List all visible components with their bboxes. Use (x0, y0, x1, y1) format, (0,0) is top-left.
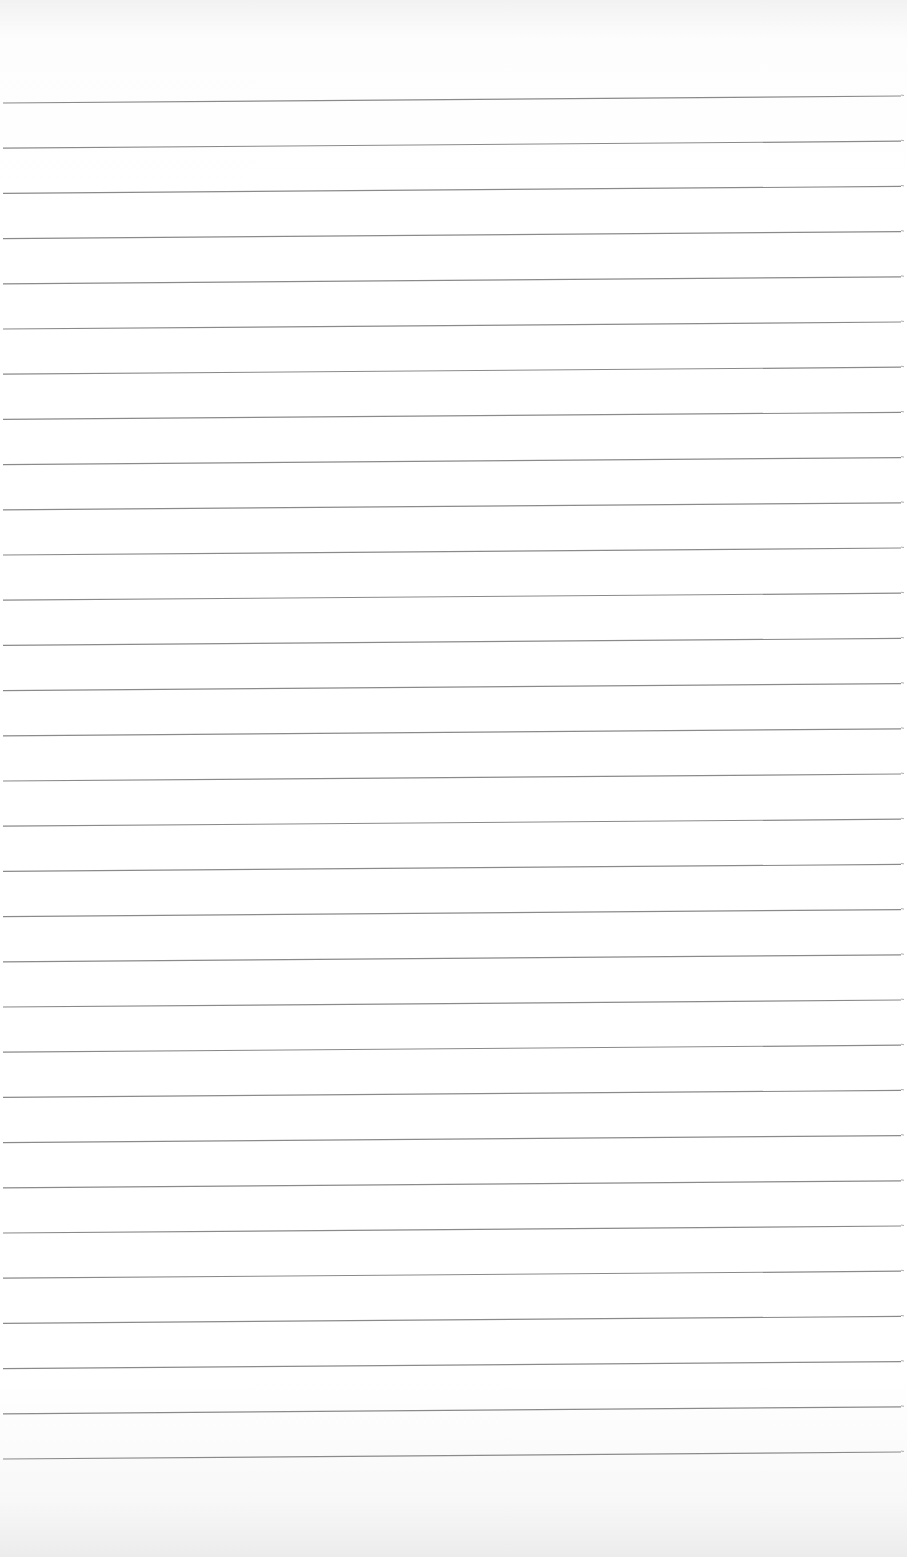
line-end-tick (901, 1044, 904, 1045)
ruled-line (3, 1362, 901, 1369)
lined-paper-sheet (0, 0, 907, 1557)
ruled-line (3, 955, 901, 962)
ruled-line (3, 864, 901, 871)
ruled-line (3, 548, 901, 555)
ruled-line (3, 322, 901, 329)
line-end-tick (901, 1361, 904, 1362)
ruled-line (3, 412, 901, 419)
line-end-tick (901, 863, 904, 864)
ruled-line (3, 684, 901, 691)
line-end-tick (901, 818, 904, 819)
line-end-tick (901, 999, 904, 1000)
ruled-line (3, 1452, 901, 1459)
ruled-line (3, 458, 901, 465)
ruled-line (3, 774, 901, 781)
line-end-tick (901, 1225, 904, 1226)
ruled-line (3, 1316, 901, 1323)
ruled-line (3, 910, 901, 917)
ruled-line (3, 1407, 901, 1414)
line-end-tick (901, 411, 904, 412)
ruled-line (3, 819, 901, 826)
line-end-tick (901, 366, 904, 367)
line-end-tick (901, 954, 904, 955)
ruled-line (3, 367, 901, 374)
ruled-line (3, 1000, 901, 1007)
line-end-tick (901, 231, 904, 232)
ruled-line (3, 638, 901, 645)
ruled-line (3, 1136, 901, 1143)
ruled-line (3, 1090, 901, 1097)
ruled-line (3, 141, 901, 148)
ruled-line (3, 277, 901, 284)
ruled-line (3, 1045, 901, 1052)
line-end-tick (901, 1135, 904, 1136)
ruled-line (3, 503, 901, 510)
ruled-line (3, 593, 901, 600)
line-end-tick (901, 457, 904, 458)
line-end-tick (901, 185, 904, 186)
line-end-tick (901, 637, 904, 638)
ruled-line (3, 96, 901, 103)
line-end-tick (901, 909, 904, 910)
line-end-tick (901, 1089, 904, 1090)
ruled-line (3, 232, 901, 239)
line-end-tick (901, 140, 904, 141)
line-end-tick (901, 1406, 904, 1407)
line-end-tick (901, 1180, 904, 1181)
line-end-tick (901, 502, 904, 503)
ruled-line (3, 729, 901, 736)
ruled-line (3, 1181, 901, 1188)
line-end-tick (901, 321, 904, 322)
line-end-tick (901, 592, 904, 593)
line-end-tick (901, 547, 904, 548)
line-end-tick (901, 683, 904, 684)
ruled-lines (0, 0, 907, 1557)
line-end-tick (901, 1315, 904, 1316)
ruled-line (3, 1226, 901, 1233)
line-end-tick (901, 728, 904, 729)
ruled-line (3, 186, 901, 193)
line-end-tick (901, 276, 904, 277)
line-end-tick (901, 95, 904, 96)
line-end-tick (901, 773, 904, 774)
line-end-tick (901, 1270, 904, 1271)
ruled-line (3, 1271, 901, 1278)
line-end-tick (901, 1451, 904, 1452)
